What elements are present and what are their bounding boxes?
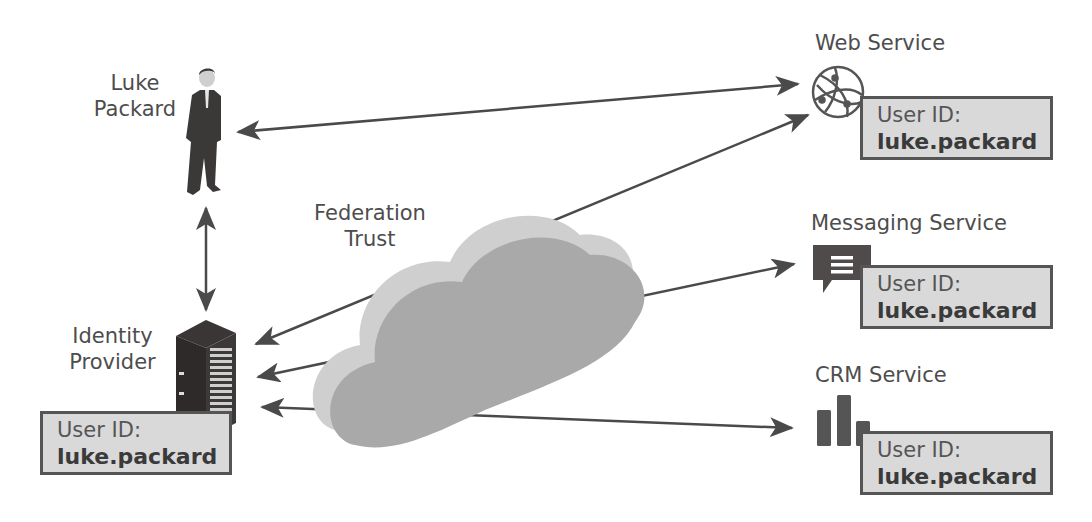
crm-user-id-box: User ID: luke.packard	[860, 431, 1053, 495]
identity-provider-label: Identity Provider	[50, 323, 175, 375]
web-service-user-id-key: User ID:	[877, 103, 1040, 128]
idp-user-id-value: luke.packard	[57, 443, 219, 470]
globe-icon	[813, 67, 863, 117]
user-label-line2: Packard	[80, 96, 190, 122]
user-label: Luke Packard	[80, 70, 190, 122]
crm-user-id-value: luke.packard	[877, 463, 1040, 490]
federation-trust-label: Federation Trust	[300, 200, 440, 252]
idp-user-id-key: User ID:	[57, 418, 219, 443]
idp-label-line2: Provider	[50, 349, 175, 375]
crm-user-id-key: User ID:	[877, 438, 1040, 463]
idp-user-id-box: User ID: luke.packard	[40, 411, 232, 475]
web-service-user-id-value: luke.packard	[877, 128, 1040, 155]
messaging-service-label: Messaging Service	[811, 210, 1007, 236]
person-icon	[186, 68, 221, 195]
web-service-label: Web Service	[815, 30, 945, 56]
federation-label-line2: Trust	[300, 226, 440, 252]
messaging-user-id-box: User ID: luke.packard	[860, 265, 1053, 329]
user-label-line1: Luke	[80, 70, 190, 96]
messaging-user-id-key: User ID:	[877, 272, 1040, 297]
messaging-user-id-value: luke.packard	[877, 297, 1040, 324]
federation-diagram: Luke Packard Identity Provider Federatio…	[0, 0, 1092, 522]
arrow-user-web	[238, 84, 798, 132]
federation-label-line1: Federation	[300, 200, 440, 226]
idp-label-line1: Identity	[50, 323, 175, 349]
crm-service-label: CRM Service	[815, 362, 947, 388]
web-service-user-id-box: User ID: luke.packard	[860, 96, 1053, 160]
